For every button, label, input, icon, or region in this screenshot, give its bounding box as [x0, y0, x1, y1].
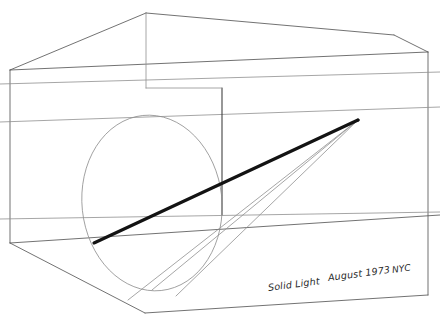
room-ceiling	[10, 13, 428, 70]
artwork-frame: .ln { fill:none; stroke:#585858; stroke-…	[0, 0, 440, 319]
room-floor	[0, 212, 440, 313]
solid-light-beam	[94, 120, 358, 243]
light-cone-rays	[94, 120, 358, 300]
light-section-ellipse	[73, 108, 231, 298]
room-front-edges	[10, 52, 428, 295]
projector-apex-point	[356, 118, 359, 121]
solid-light-drawing: .ln { fill:none; stroke:#585858; stroke-…	[0, 0, 440, 319]
